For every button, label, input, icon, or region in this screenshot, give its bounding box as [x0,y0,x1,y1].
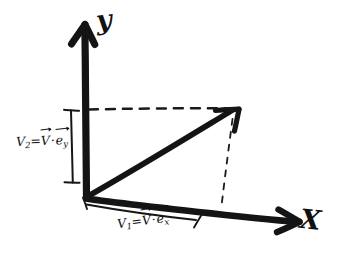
v2-basis-vector: ey [55,132,68,149]
v2-component-symbol: V [16,134,26,149]
y-component-label: V2=V·ey [16,132,68,150]
v2-equals: = [30,133,41,148]
v1-basis-subscript: x [164,216,170,227]
v2-vector-v: V [41,133,51,148]
vertical-dashed-guide [222,119,233,206]
v1-vector-v: V [141,212,152,228]
v1-vector-v-symbol: V [141,212,152,228]
horizontal-dashed-guide [89,108,232,109]
vector-v-shaft [88,110,233,196]
sketch-canvas: y X V2=V·ey V1=V·ex [0,0,341,256]
y-axis-label: y [94,3,113,35]
x-axis-label: X [298,203,322,236]
v2-basis-subscript: y [63,139,68,149]
v1-basis-vector: ex [156,210,170,228]
v2-vector-v-symbol: V [41,133,51,148]
y-axis-line [85,30,87,196]
